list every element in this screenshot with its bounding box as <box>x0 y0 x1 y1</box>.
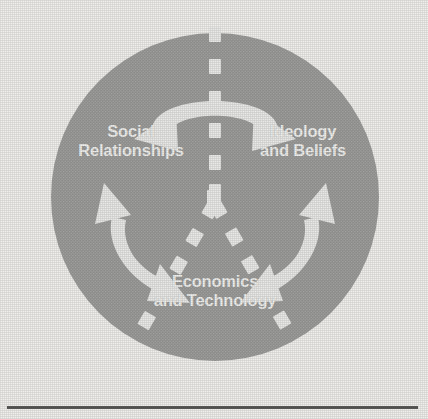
node-label-line: Relationships <box>56 141 206 160</box>
node-label-economics-and-technology: Economics and Technology <box>129 272 301 310</box>
node-label-line: Economics <box>129 272 301 291</box>
node-label-social-relationships: Social Relationships <box>56 122 206 160</box>
triad-diagram <box>0 0 428 419</box>
node-label-line: and Technology <box>129 291 301 310</box>
node-label-line: and Beliefs <box>233 141 373 160</box>
figure-container: Social Relationships Ideology and Belief… <box>0 0 428 419</box>
node-label-line: Social <box>56 122 206 141</box>
bottom-horizontal-rule <box>7 406 418 409</box>
divider-center-hub <box>207 190 221 204</box>
node-label-line: Ideology <box>233 122 373 141</box>
node-label-ideology-and-beliefs: Ideology and Beliefs <box>233 122 373 160</box>
